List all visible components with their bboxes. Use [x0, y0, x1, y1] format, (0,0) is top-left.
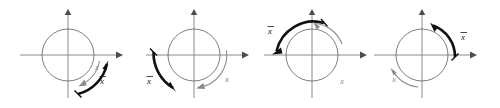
gray-rotation-arc	[199, 51, 227, 88]
x-axis-arrowhead	[360, 52, 367, 59]
label-xbar-text-panel-1: x	[99, 76, 104, 86]
label-xbar-panel-4: x	[460, 32, 467, 42]
panel-1-axes	[20, 9, 123, 98]
label-x-panel-2: x	[224, 74, 229, 84]
y-axis-arrowhead	[65, 9, 72, 15]
label-x-panel-4: x	[391, 74, 396, 84]
figure-container: x x	[0, 0, 500, 108]
panel-4: x x	[374, 9, 477, 98]
label-xbar-text-panel-3: x	[267, 26, 272, 36]
panel-4-axes	[374, 9, 477, 98]
panel-2-axes	[146, 9, 249, 98]
panel-3: x x	[264, 9, 367, 98]
gray-arc-arrowhead	[79, 80, 87, 87]
y-axis-arrowhead	[309, 9, 316, 15]
x-axis-arrowhead	[242, 52, 249, 59]
gray-arc-arrowhead	[196, 83, 205, 89]
panel-2-gray-arc-arrow	[196, 51, 227, 90]
unit-circle-rotation-figure: x x	[0, 0, 500, 108]
y-axis-arrowhead	[191, 9, 198, 15]
label-x-panel-3: x	[339, 76, 344, 86]
x-axis-arrowhead	[470, 52, 477, 59]
label-xbar-panel-2: x	[146, 76, 153, 86]
panel-2: x x	[146, 9, 249, 98]
x-axis-arrowhead	[116, 52, 123, 59]
label-xbar-panel-1: x	[99, 76, 106, 86]
label-xbar-text-panel-4: x	[460, 32, 465, 42]
label-x-panel-1: x	[94, 62, 99, 72]
label-xbar-text-panel-2: x	[146, 76, 151, 86]
panel-3-gray-arc-arrow	[313, 22, 342, 44]
y-axis-arrowhead	[419, 9, 426, 15]
label-xbar-panel-3: x	[267, 26, 274, 36]
panel-1: x x	[20, 9, 123, 98]
